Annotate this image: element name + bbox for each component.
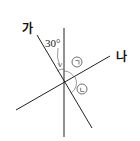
angle-diagram: 가 나 30° ㄱ ㄴ [0,0,140,141]
svg-text:ㄱ: ㄱ [74,59,80,67]
label-na: 나 [116,49,127,64]
arrow-head [58,63,62,67]
label-30-degrees: 30° [45,37,60,49]
angle-arc-nieun [71,77,77,93]
circled-label-giyeok: ㄱ [72,57,82,67]
circled-label-nieun: ㄴ [77,84,87,94]
label-ga: 가 [22,21,33,36]
angle-pointer-arrow [57,48,60,66]
angle-arc-giyeok [64,71,74,77]
line-na [16,56,110,110]
svg-text:ㄴ: ㄴ [79,86,85,94]
